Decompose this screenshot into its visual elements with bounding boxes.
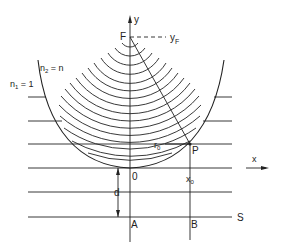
lens-focusing-diagram: y F yF n2 = n n1 = 1 r0 P 0 x0 x d A B S	[0, 0, 281, 245]
point-b-label: B	[191, 219, 198, 230]
origin-label: 0	[132, 171, 138, 182]
distance-arrowhead-down-icon	[116, 210, 120, 217]
x-axis-label: x	[252, 154, 257, 164]
x0-label: x0	[186, 174, 195, 185]
distance-arrowhead-up-icon	[116, 168, 120, 175]
radius-label: r0	[154, 140, 161, 151]
medium-outer-label: n1 = 1	[10, 79, 34, 90]
focus-height-label: yF	[170, 32, 179, 45]
y-axis-label: y	[134, 14, 139, 25]
y-axis-arrowhead-icon	[128, 15, 132, 23]
medium-inner-label: n2 = n	[40, 63, 64, 74]
screen-label: S	[237, 212, 244, 223]
focus-label: F	[120, 31, 126, 42]
point-p-label: P	[192, 145, 199, 156]
x-axis-arrowhead-icon	[261, 166, 269, 170]
distance-label: d	[114, 187, 120, 198]
point-a-label: A	[131, 219, 138, 230]
